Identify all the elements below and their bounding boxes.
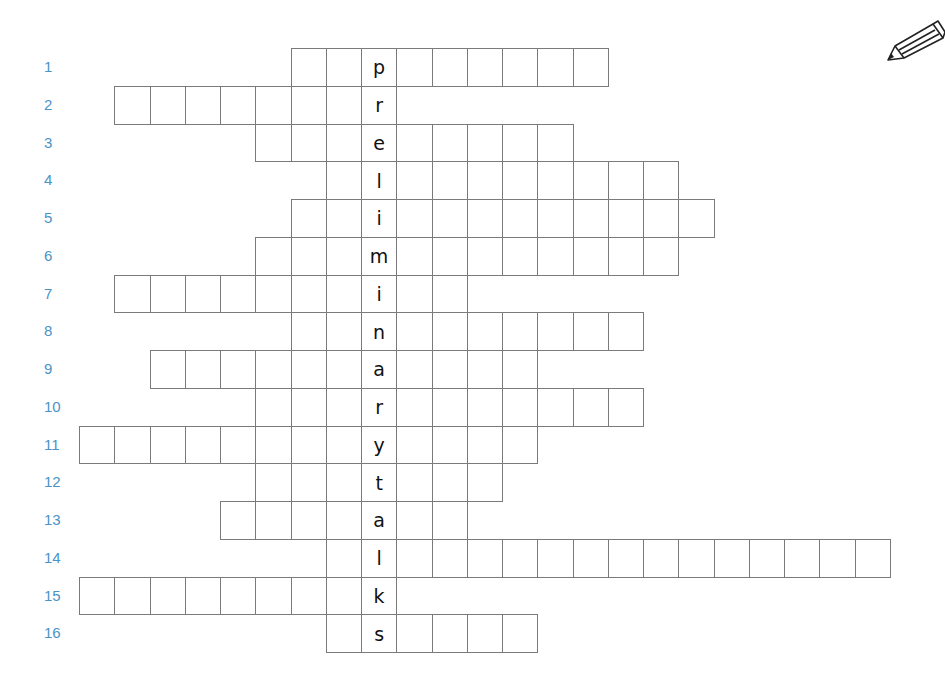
crossword-cell[interactable]	[326, 539, 362, 578]
crossword-cell[interactable]	[608, 237, 644, 276]
crossword-cell[interactable]	[291, 199, 327, 238]
crossword-cell[interactable]	[185, 275, 221, 314]
crossword-cell[interactable]	[432, 199, 468, 238]
crossword-cell[interactable]	[537, 161, 573, 200]
crossword-cell[interactable]	[608, 388, 644, 427]
crossword-cell[interactable]	[537, 199, 573, 238]
crossword-cell[interactable]	[537, 312, 573, 351]
crossword-cell[interactable]	[255, 501, 291, 540]
crossword-cell[interactable]	[326, 350, 362, 389]
key-letter-cell[interactable]: m	[361, 237, 397, 276]
crossword-cell[interactable]	[255, 275, 291, 314]
crossword-cell[interactable]	[537, 237, 573, 276]
crossword-cell[interactable]	[432, 275, 468, 314]
crossword-cell[interactable]	[114, 426, 150, 465]
key-letter-cell[interactable]: l	[361, 539, 397, 578]
crossword-cell[interactable]	[855, 539, 891, 578]
crossword-cell[interactable]	[326, 501, 362, 540]
crossword-cell[interactable]	[502, 237, 538, 276]
crossword-cell[interactable]	[608, 539, 644, 578]
crossword-cell[interactable]	[326, 275, 362, 314]
crossword-cell[interactable]	[432, 388, 468, 427]
crossword-cell[interactable]	[185, 426, 221, 465]
crossword-cell[interactable]	[114, 577, 150, 616]
crossword-cell[interactable]	[291, 237, 327, 276]
crossword-cell[interactable]	[643, 161, 679, 200]
crossword-cell[interactable]	[432, 463, 468, 502]
crossword-cell[interactable]	[396, 199, 432, 238]
crossword-cell[interactable]	[326, 199, 362, 238]
crossword-cell[interactable]	[255, 86, 291, 125]
crossword-cell[interactable]	[255, 350, 291, 389]
crossword-cell[interactable]	[643, 237, 679, 276]
crossword-cell[interactable]	[502, 614, 538, 653]
crossword-cell[interactable]	[502, 124, 538, 163]
crossword-cell[interactable]	[255, 463, 291, 502]
crossword-cell[interactable]	[291, 48, 327, 87]
key-letter-cell[interactable]: i	[361, 199, 397, 238]
crossword-cell[interactable]	[150, 426, 186, 465]
crossword-cell[interactable]	[326, 426, 362, 465]
crossword-cell[interactable]	[749, 539, 785, 578]
crossword-cell[interactable]	[326, 48, 362, 87]
crossword-cell[interactable]	[150, 275, 186, 314]
crossword-cell[interactable]	[432, 161, 468, 200]
crossword-cell[interactable]	[678, 199, 714, 238]
key-letter-cell[interactable]: i	[361, 275, 397, 314]
crossword-cell[interactable]	[396, 539, 432, 578]
crossword-cell[interactable]	[432, 539, 468, 578]
key-letter-cell[interactable]: k	[361, 577, 397, 616]
crossword-cell[interactable]	[573, 388, 609, 427]
crossword-cell[interactable]	[643, 539, 679, 578]
crossword-cell[interactable]	[608, 199, 644, 238]
crossword-cell[interactable]	[396, 614, 432, 653]
crossword-cell[interactable]	[396, 463, 432, 502]
crossword-cell[interactable]	[220, 501, 256, 540]
crossword-cell[interactable]	[291, 312, 327, 351]
crossword-cell[interactable]	[432, 501, 468, 540]
crossword-cell[interactable]	[326, 614, 362, 653]
crossword-cell[interactable]	[150, 350, 186, 389]
crossword-cell[interactable]	[714, 539, 750, 578]
key-letter-cell[interactable]: a	[361, 501, 397, 540]
crossword-cell[interactable]	[819, 539, 855, 578]
crossword-cell[interactable]	[255, 388, 291, 427]
crossword-cell[interactable]	[467, 539, 503, 578]
crossword-cell[interactable]	[220, 350, 256, 389]
crossword-cell[interactable]	[643, 199, 679, 238]
crossword-cell[interactable]	[326, 237, 362, 276]
crossword-cell[interactable]	[502, 48, 538, 87]
crossword-cell[interactable]	[396, 388, 432, 427]
crossword-cell[interactable]	[678, 539, 714, 578]
crossword-cell[interactable]	[467, 426, 503, 465]
crossword-cell[interactable]	[467, 161, 503, 200]
key-letter-cell[interactable]: t	[361, 463, 397, 502]
crossword-cell[interactable]	[396, 48, 432, 87]
crossword-cell[interactable]	[396, 426, 432, 465]
crossword-cell[interactable]	[291, 501, 327, 540]
crossword-cell[interactable]	[291, 577, 327, 616]
crossword-cell[interactable]	[326, 577, 362, 616]
crossword-cell[interactable]	[396, 501, 432, 540]
crossword-cell[interactable]	[467, 463, 503, 502]
crossword-cell[interactable]	[291, 350, 327, 389]
crossword-cell[interactable]	[467, 388, 503, 427]
crossword-cell[interactable]	[467, 48, 503, 87]
crossword-cell[interactable]	[432, 124, 468, 163]
crossword-cell[interactable]	[502, 199, 538, 238]
crossword-cell[interactable]	[150, 86, 186, 125]
crossword-cell[interactable]	[220, 275, 256, 314]
key-letter-cell[interactable]: n	[361, 312, 397, 351]
crossword-cell[interactable]	[150, 577, 186, 616]
crossword-cell[interactable]	[291, 463, 327, 502]
crossword-cell[interactable]	[291, 426, 327, 465]
crossword-cell[interactable]	[467, 237, 503, 276]
crossword-cell[interactable]	[185, 86, 221, 125]
crossword-cell[interactable]	[537, 388, 573, 427]
crossword-cell[interactable]	[467, 350, 503, 389]
crossword-cell[interactable]	[326, 124, 362, 163]
key-letter-cell[interactable]: a	[361, 350, 397, 389]
crossword-cell[interactable]	[432, 426, 468, 465]
crossword-cell[interactable]	[573, 161, 609, 200]
crossword-cell[interactable]	[537, 48, 573, 87]
